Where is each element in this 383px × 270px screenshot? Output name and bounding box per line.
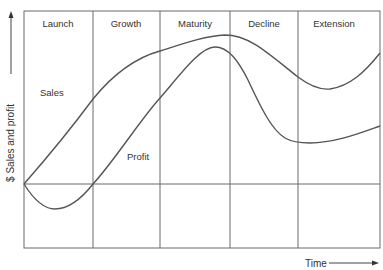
stage-label-decline: Decline xyxy=(248,18,280,29)
stage-label-extension: Extension xyxy=(313,18,355,29)
profit-curve xyxy=(24,47,380,209)
stage-label-maturity: Maturity xyxy=(178,18,212,29)
chart-frame xyxy=(24,11,380,248)
sales-curve xyxy=(24,35,380,184)
product-life-cycle-diagram: Launch Growth Maturity Decline Extension… xyxy=(0,0,383,270)
y-axis-arrow-head-icon xyxy=(9,11,14,18)
stage-label-growth: Growth xyxy=(111,18,142,29)
profit-label: Profit xyxy=(127,151,150,162)
x-axis-arrow-head-icon xyxy=(372,261,379,266)
x-axis-label: Time xyxy=(305,258,327,269)
stage-label-launch: Launch xyxy=(42,18,73,29)
y-axis-label: $ Sales and profit xyxy=(5,104,16,182)
sales-label: Sales xyxy=(40,87,64,98)
